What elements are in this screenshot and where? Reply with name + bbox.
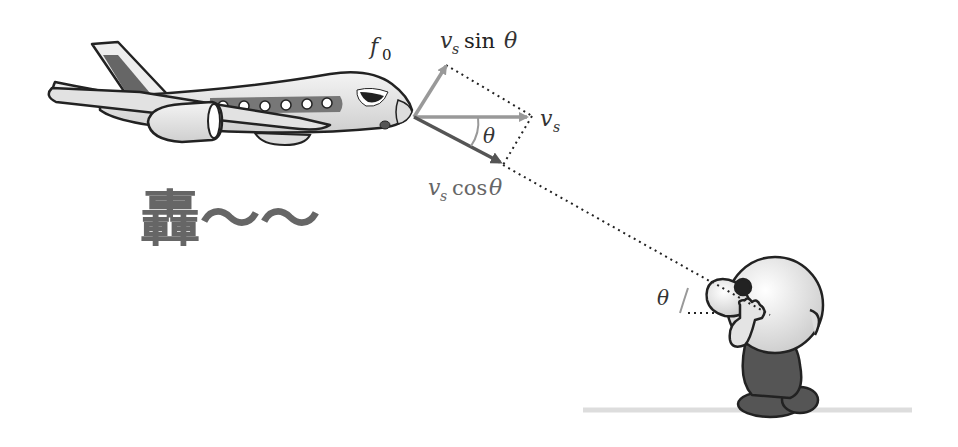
observer-angle: θ [657,286,688,313]
observer-theta-arc [680,288,688,313]
svg-text:θ: θ [504,28,517,53]
airplane [49,42,412,145]
theta-label: θ [483,124,495,148]
doppler-diagram: f 0 v s sin θ v s θ v s cos θ 轟〜〜 [0,0,958,447]
svg-text:cos: cos [452,176,487,200]
svg-text:sin: sin [464,29,495,53]
vs-cos-label: v s cos θ [428,175,502,204]
velocity-vectors [414,66,527,162]
svg-text:0: 0 [382,46,392,64]
vs-label: v s [540,106,560,135]
sound-effect-text: 轟〜〜 [140,184,320,254]
vs-sin-label: v s sin θ [440,28,517,57]
vs-sin-arrow [414,66,446,117]
svg-text:轟〜〜: 轟〜〜 [140,184,320,254]
observer-character [707,257,823,417]
svg-text:θ: θ [483,124,495,148]
svg-text:θ: θ [657,286,669,310]
source-frequency-label: f 0 [368,34,392,64]
theta-arc [471,117,478,146]
svg-text:s: s [452,41,459,57]
svg-text:s: s [440,188,447,204]
svg-text:s: s [553,119,560,135]
svg-text:v: v [540,106,553,131]
svg-text:θ: θ [489,175,502,200]
svg-text:f: f [368,34,382,59]
